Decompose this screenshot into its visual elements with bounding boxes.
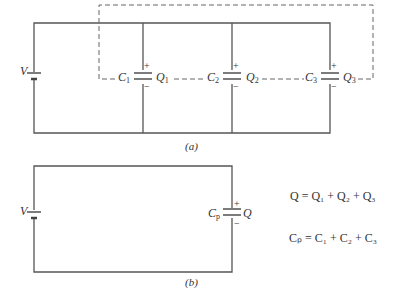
parallel-capacitors-diagram: V + − C1 Q1 + − C2 Q2	[0, 0, 395, 289]
svg-text:−: −	[233, 81, 239, 92]
capacitor-1: + − C1 Q1	[117, 60, 171, 92]
voltage-label-b: V	[20, 204, 29, 218]
svg-text:+: +	[144, 60, 150, 71]
battery-b-icon	[27, 212, 41, 218]
bottom-wire-b	[34, 218, 232, 272]
capacitor-2: + − C2 Q2	[206, 60, 260, 92]
equivalent-capacitor-label: Cp	[208, 206, 220, 221]
svg-text:−: −	[234, 218, 240, 229]
voltage-label: V	[20, 64, 29, 78]
charge-equation: Q = Q₁ + Q₂ + Q₃	[290, 189, 376, 203]
circuit-b: V + − Cp Q (b)	[20, 166, 252, 289]
svg-text:−: −	[144, 81, 150, 92]
equivalent-capacitor: + − Cp Q	[208, 198, 252, 229]
svg-text:+: +	[234, 198, 240, 209]
equivalent-charge-label: Q	[243, 206, 252, 220]
bottom-wire	[34, 80, 330, 133]
caption-a: (a)	[185, 140, 198, 153]
capacitance-equation: Cₚ = C₁ + C₂ + C₃	[289, 231, 377, 245]
caption-b: (b)	[185, 276, 198, 289]
top-wire-b	[34, 166, 232, 210]
capacitor-3: + − C3 Q3	[304, 60, 358, 92]
battery-icon	[27, 73, 41, 79]
circuit-a: V + − C1 Q1 + − C2 Q2	[20, 5, 373, 153]
svg-text:−: −	[331, 81, 337, 92]
svg-text:+: +	[233, 60, 239, 71]
top-wire	[34, 23, 330, 72]
svg-text:+: +	[331, 60, 337, 71]
